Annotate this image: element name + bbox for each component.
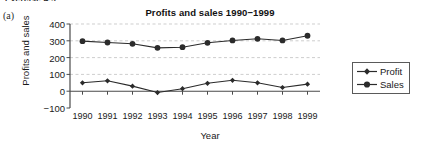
x-tick-label: 1991 [97, 111, 117, 121]
y-tick-label: 400 [31, 19, 65, 30]
y-axis-label: Profits and sales [20, 3, 31, 98]
y-tick-label: 0 [31, 86, 65, 97]
y-tick-label: 100 [31, 69, 65, 80]
legend-label-sales: Sales [380, 79, 404, 90]
y-tick-label: 200 [31, 52, 65, 63]
x-tick-label: 1995 [197, 111, 217, 121]
profit-legend-key-icon [356, 66, 378, 77]
x-axis-label: Year [150, 130, 270, 141]
y-tick-label: −100 [31, 103, 65, 114]
y-tick-label: 300 [31, 35, 65, 46]
legend-label-profit: Profit [380, 66, 402, 77]
part-label: (a) [3, 10, 14, 21]
x-tick-label: 1998 [272, 111, 292, 121]
x-tick-label: 1990 [72, 111, 92, 121]
x-tick-label: 1993 [147, 111, 167, 121]
cropped-exercise-heading: Exercise 4.5 [5, 0, 56, 1]
figure-panel: Exercise 4.5 (a) Profits and sales 1990−… [0, 0, 425, 149]
legend: Profit Sales [352, 62, 410, 94]
x-tick-label: 1992 [122, 111, 142, 121]
chart-canvas [70, 24, 320, 108]
x-tick-label: 1994 [172, 111, 192, 121]
x-tick-label: 1997 [247, 111, 267, 121]
chart-title: Profits and sales 1990−1999 [100, 7, 320, 18]
sales-legend-key-icon [356, 79, 378, 90]
plot-area: 4003002001000−100 1990199119921993199419… [70, 24, 320, 108]
axis-lines [70, 24, 320, 108]
x-tick-label: 1996 [222, 111, 242, 121]
legend-item-profit[interactable]: Profit [356, 65, 404, 78]
data-series-layer [80, 33, 311, 95]
x-tick-label: 1999 [297, 111, 317, 121]
legend-item-sales[interactable]: Sales [356, 78, 404, 91]
